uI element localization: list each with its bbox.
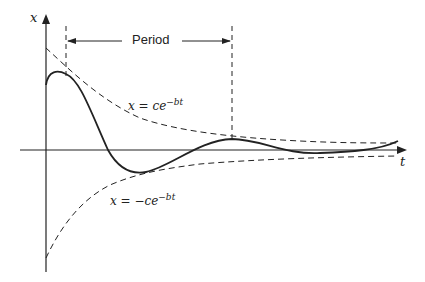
upper-envelope-label-exp: −bt	[166, 97, 183, 107]
upper-envelope-label: x = ce−bt	[128, 97, 183, 113]
x-axis-label: x	[30, 10, 37, 25]
t-axis-label: t	[400, 154, 405, 169]
x-axis-arrow-icon	[42, 14, 50, 24]
period-arrow-right-head-icon	[222, 38, 231, 44]
lower-envelope-curve	[46, 156, 398, 258]
lower-envelope-label-lhs: x = −ce	[110, 194, 158, 208]
damped-oscillation-diagram	[0, 0, 425, 282]
period-arrow-left-head-icon	[67, 38, 76, 44]
t-axis-arrow-icon	[397, 146, 407, 154]
damped-oscillation-curve	[46, 72, 398, 173]
period-label: Period	[128, 32, 174, 47]
upper-envelope-label-lhs: x = ce	[128, 99, 166, 113]
lower-envelope-label-exp: −bt	[158, 192, 175, 202]
lower-envelope-label: x = −ce−bt	[110, 192, 175, 208]
